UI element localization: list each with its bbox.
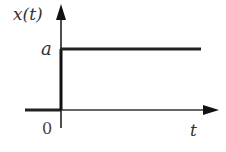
y-axis-label: x(t) [13, 4, 43, 24]
level-label: a [41, 38, 52, 59]
y-axis-arrow-icon [56, 4, 66, 20]
origin-label: 0 [42, 119, 52, 138]
chart-svg: x(t) a 0 t [0, 0, 226, 152]
x-axis-arrow-icon [203, 105, 219, 115]
x-axis-label: t [190, 120, 197, 140]
step-function-chart: x(t) a 0 t [0, 0, 226, 152]
